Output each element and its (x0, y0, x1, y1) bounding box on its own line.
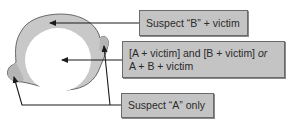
arrow-suspect-a-right (104, 46, 110, 105)
label-overlap-line1-text: [A + victim] and [B + victim] (129, 47, 258, 59)
label-overlap-or: or (258, 47, 267, 59)
label-suspect-b-text: Suspect “B” + victim (146, 17, 241, 30)
label-overlap-line2: A + B + victim (129, 60, 278, 73)
label-overlap: [A + victim] and [B + victim] or A + B +… (122, 41, 285, 78)
label-overlap-line1: [A + victim] and [B + victim] or (129, 47, 278, 60)
label-suspect-a: Suspect “A” only (121, 93, 214, 118)
label-suspect-a-text: Suspect “A” only (128, 99, 207, 112)
label-suspect-b: Suspect “B” + victim (139, 10, 248, 36)
